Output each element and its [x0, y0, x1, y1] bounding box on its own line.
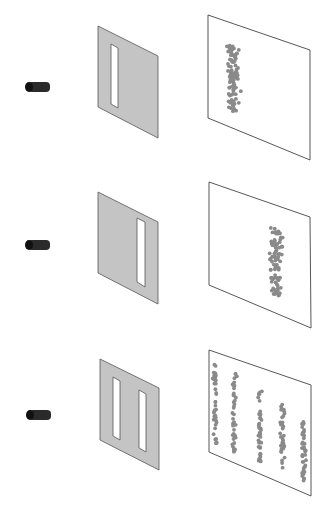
slit-barrier	[98, 26, 158, 138]
slit-opening	[137, 218, 145, 287]
detection-screen	[208, 15, 310, 160]
electron-gun-icon	[26, 410, 51, 420]
detection-screen	[209, 182, 311, 328]
slit-opening	[111, 44, 118, 108]
slit-opening	[113, 377, 120, 440]
panel-single-slit-right	[25, 182, 311, 328]
panel-single-slit-left	[25, 15, 310, 160]
slit-barrier	[100, 359, 159, 470]
electron-gun-icon	[25, 240, 50, 250]
panel-double-slit	[26, 350, 311, 496]
slit-experiment-diagram	[0, 0, 332, 519]
slit-opening	[139, 390, 146, 452]
electron-gun-icon	[25, 82, 50, 92]
slit-barrier	[98, 192, 158, 304]
